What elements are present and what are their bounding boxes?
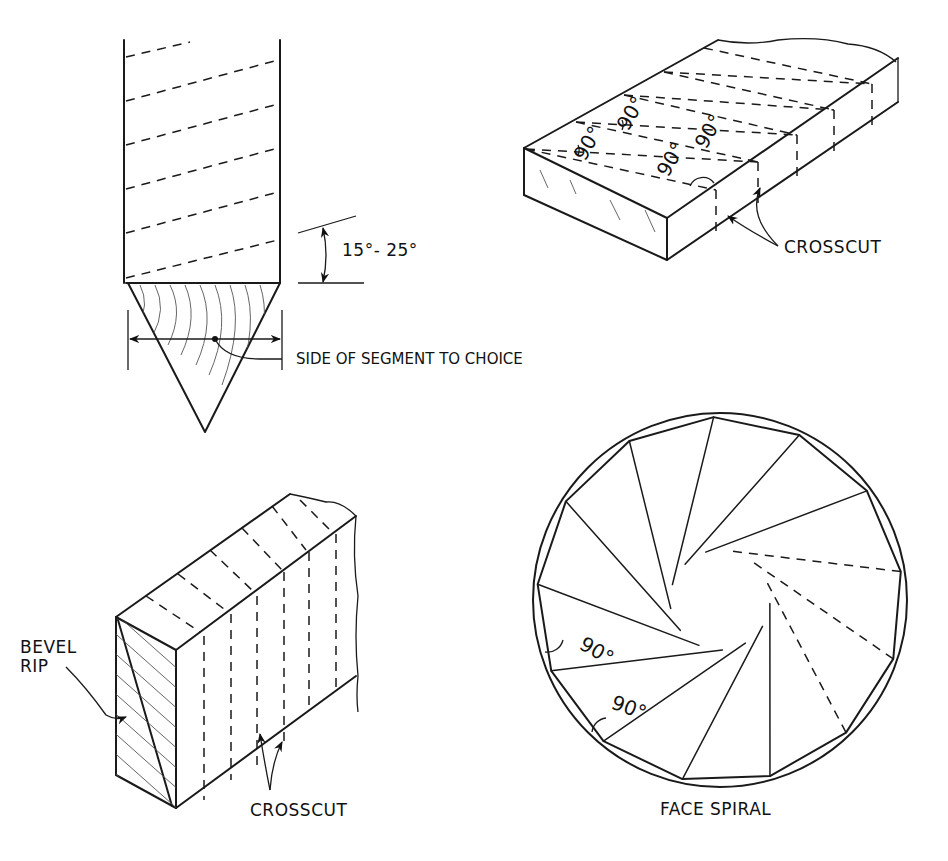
bevel-rip-board-drawing: BEVEL RIP CROSSCUT [20,494,358,840]
face-spiral-title: FACE SPIRAL [660,799,771,819]
board-bottom-front-edge [524,195,667,260]
spiral-spoke [629,441,670,608]
spiral-spoke [685,435,799,564]
spiral-angle-label: 90° [608,690,650,725]
spiral-spoke [672,417,713,584]
spiral-spoke [706,491,867,552]
bevel-broken-end [354,516,358,712]
rip-label: RIP [20,656,49,676]
bevel-bottom-right-edge [176,676,356,808]
angle-label-90: 90° [612,92,651,135]
crosscut-arrow [728,216,778,246]
bevel-top-back-edge [116,494,290,617]
board-top-back-edge [524,40,718,148]
angle-label-90: 90° [690,110,729,153]
diagram-canvas: SIDE OF SEGMENT TO CHOICE 15°- 25° [0,0,948,861]
spiral-polygon [538,417,901,779]
side-of-segment-label: SIDE OF SEGMENT TO CHOICE [296,350,523,368]
bevel-broken-top [290,494,356,516]
bevel-top-face-cuts [146,500,332,632]
board-crosscut-drawing: 90° 90° 90° 90° CROSSCUT [524,39,898,260]
face-spiral-drawing: 90° 90° FACE SPIRAL [533,413,907,819]
bevel-crosscut-lines [204,534,336,800]
bevel-right-top-edge [176,516,356,650]
wood-grain-hatch [138,285,265,385]
strip-dashed-cuts [126,42,278,278]
spiral-angle-label: 90° [576,632,619,671]
board-broken-end [718,39,896,62]
bevel-label: BEVEL [20,637,77,657]
angle-dimension-arrow [323,228,326,282]
spiral-spoke [566,501,680,630]
segment-strip-drawing: SIDE OF SEGMENT TO CHOICE 15°- 25° [124,40,523,432]
angle-range-label: 15°- 25° [342,240,418,260]
spiral-dashed-spoke [766,580,846,733]
crosscut-label: CROSSCUT [784,237,881,257]
spiral-dashed-spoke [751,561,893,659]
spiral-dashed-spoke [730,551,901,572]
angle-label-90: 90° [569,122,608,165]
angle-ref-line [298,216,356,233]
segment-triangle [128,283,280,432]
crosscut-label: CROSSCUT [250,800,347,820]
crosscut-arrow [270,742,282,790]
spiral-outer-circle [533,413,907,787]
spiral-segments [538,417,901,779]
bevel-cut-line [118,620,172,806]
spiral-spoke [538,584,699,645]
angle-arc [690,177,714,186]
end-grain-hatch [540,170,655,232]
angle-label-90: 90° [652,138,691,181]
